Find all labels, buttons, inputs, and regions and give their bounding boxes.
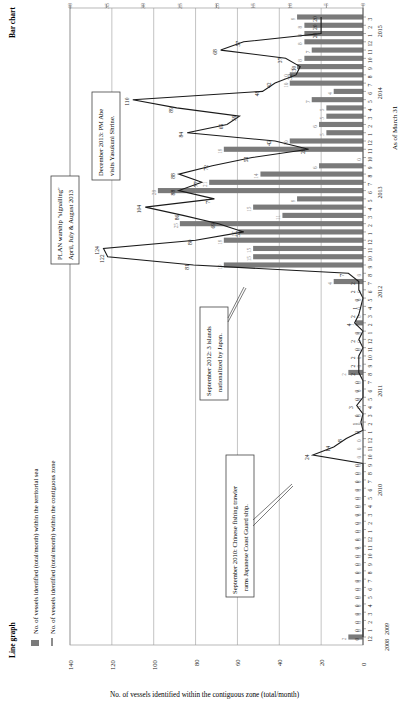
line-value: 0	[354, 298, 360, 301]
territorial-sea-bars	[158, 14, 363, 639]
month-label: 8	[367, 75, 373, 78]
month-label: 3	[367, 513, 373, 516]
bar	[253, 254, 363, 259]
month-label: 4	[367, 604, 373, 607]
bar-value: 15	[246, 206, 252, 212]
annotation-plan-warship: PLAN warship "signalling" April, July & …	[51, 176, 79, 264]
bar-value: 6	[312, 166, 318, 169]
line-value: 2	[350, 315, 356, 318]
line-value: 0	[354, 431, 360, 434]
month-label: 6	[367, 191, 373, 194]
month-label: 11	[367, 446, 373, 452]
month-label: 1	[367, 34, 373, 37]
line-value: 77	[193, 181, 199, 187]
month-label: 8	[367, 174, 373, 177]
bar-value: 4	[327, 282, 333, 285]
month-label: 2	[367, 522, 373, 525]
bar-value: 9	[290, 199, 296, 202]
bar	[326, 130, 363, 135]
month-label: 12	[367, 537, 373, 543]
year-label: 2013	[377, 186, 383, 198]
month-label: 2	[367, 224, 373, 227]
bar	[224, 238, 363, 243]
month-label: 8	[367, 373, 373, 376]
bar-value: 9	[290, 17, 296, 20]
month-label: 10	[367, 57, 373, 63]
line-value: 0	[354, 613, 360, 616]
rotated-combo-chart: 2000000000000000000000000000000020000010…	[0, 0, 400, 701]
line-value: 57	[235, 231, 241, 237]
bar	[326, 105, 363, 110]
bar	[238, 229, 363, 234]
bar-value: 0	[356, 439, 362, 442]
line-value: 0	[354, 522, 360, 525]
month-label: 2	[367, 323, 373, 326]
line-value: 0	[354, 563, 360, 566]
bar-value: 8	[297, 42, 303, 45]
month-label: 5	[367, 398, 373, 401]
bar-axis-tick: 0	[360, 3, 366, 6]
bar-value: 7	[305, 50, 311, 53]
line-axis-tick: 60	[234, 660, 241, 667]
bar-value: 19	[217, 239, 223, 245]
bar-axis-tick: 30	[140, 3, 146, 9]
line-value: 1	[352, 307, 358, 310]
month-label: 5	[367, 100, 373, 103]
line-value: 0	[354, 588, 360, 591]
line-value: 84	[178, 132, 184, 138]
line-value: 110	[124, 97, 130, 105]
bar	[253, 205, 363, 210]
month-label: 7	[367, 183, 373, 186]
month-label: 2	[367, 26, 373, 29]
month-label: 7	[367, 84, 373, 87]
bar-value: 8	[297, 26, 303, 29]
month-label: 7	[367, 381, 373, 384]
bar-value: 7	[305, 100, 311, 103]
line-value: 0	[354, 381, 360, 384]
bar-value: 0	[356, 447, 362, 450]
annotation-sept-2010: September 2010: Chinese fishing trawler …	[226, 455, 293, 597]
month-label: 10	[367, 553, 373, 559]
line-value: 81	[184, 264, 190, 270]
bar-axis-tick: 20	[214, 3, 220, 9]
line-value: 3	[348, 406, 354, 409]
bar-chart-title: Bar chart	[8, 7, 17, 38]
line-value: 0	[354, 414, 360, 417]
month-label: 4	[367, 108, 373, 111]
annotation-text: April, July & August 2013	[67, 189, 74, 260]
month-label: 12	[367, 239, 373, 245]
annotation-dec-2013: December 2013: PM Abe visits Yasukuni Sh…	[92, 92, 120, 180]
month-label: 7	[367, 480, 373, 483]
month-label: 6	[367, 389, 373, 392]
line-axis-tick: 40	[276, 660, 283, 667]
line-value: 72	[203, 165, 209, 171]
line-value: 2	[350, 340, 356, 343]
line-value: 2	[350, 373, 356, 376]
line-value: 0	[354, 489, 360, 492]
month-label: 9	[367, 563, 373, 566]
line-value: 0	[354, 629, 360, 632]
bar-value: 11	[275, 214, 281, 219]
line-value: 0	[354, 332, 360, 335]
year-label: 2010	[377, 484, 383, 496]
bar	[297, 196, 363, 201]
line-value: 20	[312, 33, 318, 39]
annotation-text: PLAN warship "signalling"	[56, 187, 63, 260]
bar-axis-tick: 10	[287, 3, 293, 9]
legend: No. of vessels identified (total/month) …	[31, 461, 57, 646]
chart-canvas: 2000000000000000000000000000000020000010…	[0, 0, 400, 701]
line-value: 48	[254, 90, 260, 96]
year-label: 2015	[377, 25, 383, 37]
year-label: 2011	[377, 385, 383, 397]
bar-axis-tick: 5	[323, 3, 329, 6]
annotation-text: September 2010: Chinese fishing trawler	[231, 485, 238, 594]
line-value: 71	[205, 198, 211, 204]
month-label: 8	[367, 472, 373, 475]
bar	[253, 246, 363, 251]
annotation-text: nationalized by Japan.	[216, 333, 223, 392]
year-label: 2014	[377, 87, 383, 99]
month-label: 10	[367, 454, 373, 460]
line-value: 0	[354, 555, 360, 558]
line-value: 26	[300, 148, 306, 154]
month-label: 3	[367, 315, 373, 318]
